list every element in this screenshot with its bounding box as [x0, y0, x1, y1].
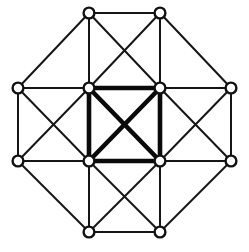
graph-diagram-canvas: [0, 0, 249, 252]
graph-vertex-lower-left-outer: [13, 156, 24, 167]
graph-vertex-top-left: [84, 8, 95, 19]
graph-vertex-inner-bottom-left: [84, 156, 95, 167]
graph-vertex-upper-right-outer: [226, 83, 237, 94]
graph-edge-octagon-corner-top-right: [160, 13, 231, 88]
graph-vertex-inner-top-left: [84, 83, 95, 94]
bold-edge-layer: [89, 88, 160, 161]
graph-edge-octagon-corner-top-left: [18, 13, 89, 88]
graph-vertex-bottom-left: [84, 227, 95, 238]
graph-edge-octagon-corner-bottom-left: [18, 161, 89, 232]
figure-root: [0, 0, 249, 252]
graph-vertex-upper-left-outer: [13, 83, 24, 94]
graph-vertex-inner-top-right: [155, 83, 166, 94]
graph-vertex-inner-bottom-right: [155, 156, 166, 167]
graph-vertex-lower-right-outer: [226, 156, 237, 167]
graph-edge-octagon-corner-bottom-right: [160, 161, 231, 232]
graph-vertex-top-right: [155, 8, 166, 19]
graph-vertex-bottom-right: [155, 227, 166, 238]
